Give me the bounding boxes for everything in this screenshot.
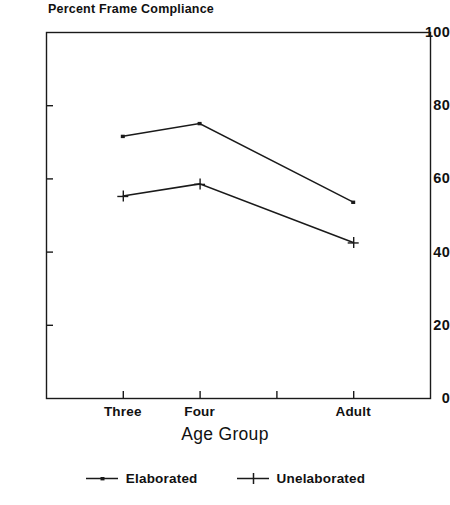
legend-entry: Unelaborated	[236, 470, 366, 486]
data-point-dot-marker-icon	[198, 122, 202, 125]
legend-label: Elaborated	[126, 471, 198, 486]
legend-label: Unelaborated	[277, 471, 366, 486]
x-axis-title: Age Group	[0, 424, 450, 445]
legend-entry: Elaborated	[85, 470, 198, 486]
data-point-dot-marker-icon	[121, 135, 125, 138]
plus-marker-icon	[236, 470, 270, 486]
chart-legend: ElaboratedUnelaborated	[0, 470, 450, 486]
plot-frame	[47, 33, 431, 399]
series-line-unelaborated	[123, 184, 353, 243]
chart-figure: Percent Frame Compliance 020406080100 Th…	[0, 0, 450, 505]
data-point-dot-marker-icon	[351, 201, 355, 204]
dot-marker-icon	[85, 470, 119, 486]
